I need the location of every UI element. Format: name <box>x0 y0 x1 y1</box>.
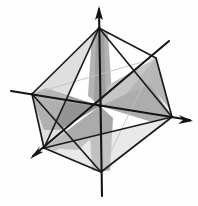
octahedron-figure <box>0 0 198 206</box>
figure-canvas <box>0 0 198 206</box>
scan-grain-overlay <box>0 0 198 206</box>
